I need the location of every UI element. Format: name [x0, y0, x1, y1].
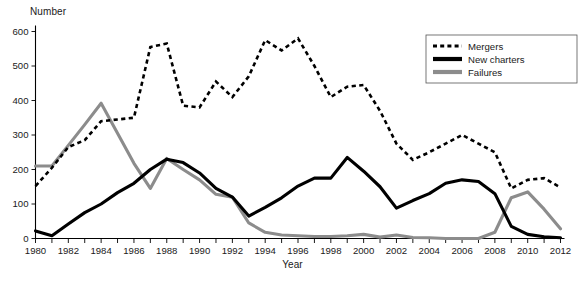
y-tick-label: 500 [12, 60, 28, 71]
legend-label-failures: Failures [468, 67, 502, 78]
x-tick-label: 1984 [90, 245, 112, 256]
x-tick-label: 2008 [484, 245, 505, 256]
legend-label-new-charters: New charters [468, 54, 525, 65]
x-tick-label: 2012 [550, 245, 571, 256]
chart-legend: Mergers New charters Failures [426, 35, 577, 83]
x-tick-label: 2000 [353, 245, 374, 256]
chart-figure: Number Year 0100200300400500600 19801982… [0, 0, 585, 281]
y-tick-label: 600 [12, 26, 28, 37]
x-tick-label: 1986 [123, 245, 144, 256]
y-tick-label: 200 [12, 164, 28, 175]
x-tick-label: 1998 [320, 245, 341, 256]
line-chart-plot: 0100200300400500600 19801982198419861988… [0, 0, 585, 281]
x-tick-label: 2004 [419, 245, 441, 256]
x-axis-tick-group: 1980198219841986198819901992199419961998… [25, 239, 571, 256]
series-line-new-charters [36, 157, 561, 237]
series-line-failures [36, 103, 561, 238]
legend-label-mergers: Mergers [468, 41, 503, 52]
x-tick-label: 2002 [386, 245, 407, 256]
y-axis-tick-group: 0100200300400500600 [12, 26, 35, 244]
x-tick-label: 2010 [517, 245, 538, 256]
y-tick-label: 300 [12, 129, 28, 140]
x-tick-label: 1990 [189, 245, 210, 256]
x-tick-label: 2006 [451, 245, 472, 256]
y-tick-label: 400 [12, 95, 28, 106]
y-tick-label: 100 [12, 198, 28, 209]
x-tick-label: 1988 [156, 245, 177, 256]
x-tick-label: 1994 [255, 245, 277, 256]
x-tick-label: 1996 [287, 245, 308, 256]
x-tick-label: 1982 [58, 245, 79, 256]
y-tick-label: 0 [23, 233, 28, 244]
x-tick-label: 1980 [25, 245, 46, 256]
x-tick-label: 1992 [222, 245, 243, 256]
